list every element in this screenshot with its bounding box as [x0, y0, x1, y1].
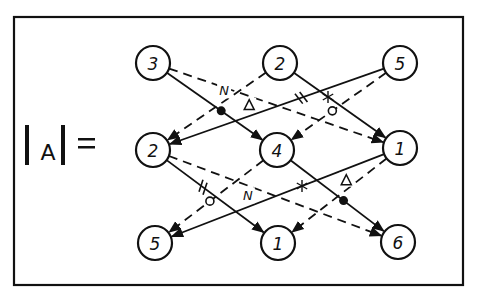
asterisk-mark-icon: [297, 180, 307, 192]
svg-text:N: N: [243, 188, 253, 203]
n-mark-icon: N: [241, 187, 255, 203]
triangle-mark-icon: [242, 98, 256, 112]
lhs-expression: A: [25, 125, 95, 165]
node-top-3: 5: [383, 46, 417, 80]
filled-dot-mark-icon: [339, 196, 348, 205]
n-mark-icon: N: [217, 82, 231, 98]
open-circle-mark-icon: [206, 197, 214, 205]
svg-text:N: N: [219, 83, 229, 98]
node-value: 1: [395, 139, 406, 159]
node-middle-2: 4: [260, 133, 294, 167]
determinant-diagram: A NN 325241516: [0, 0, 477, 293]
determinant-bar-left: [25, 125, 29, 165]
node-middle-1: 2: [136, 133, 170, 167]
nodes-layer: 325241516: [136, 46, 417, 260]
node-bottom-1: 5: [138, 226, 172, 260]
edge-t3-to-m2: [292, 73, 386, 140]
node-top-2: 2: [263, 46, 297, 80]
node-value: 1: [273, 234, 284, 254]
matrix-symbol: A: [40, 140, 55, 165]
node-value: 5: [395, 54, 406, 74]
node-value: 2: [275, 54, 286, 74]
filled-dot-mark-icon: [217, 106, 226, 115]
node-bottom-2: 1: [261, 226, 295, 260]
open-circle-mark-icon: [328, 107, 336, 115]
equals-top-stroke: [78, 138, 95, 141]
node-top-1: 3: [136, 46, 170, 80]
node-value: 5: [150, 234, 161, 254]
node-value: 6: [393, 233, 404, 253]
node-middle-3: 1: [383, 131, 417, 165]
triangle-mark-icon: [339, 173, 353, 187]
node-bottom-3: 6: [381, 225, 415, 259]
equals-bottom-stroke: [78, 146, 95, 149]
asterisk-mark-icon: [323, 91, 333, 103]
node-value: 3: [148, 54, 159, 74]
node-value: 4: [272, 141, 283, 161]
node-value: 2: [148, 141, 159, 161]
determinant-bar-right: [61, 125, 65, 165]
